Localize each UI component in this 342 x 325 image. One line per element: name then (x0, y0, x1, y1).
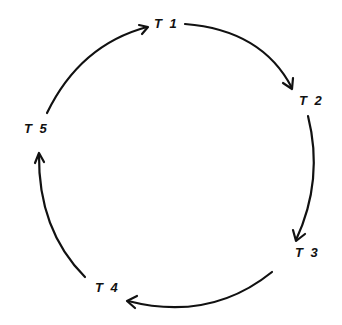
edge-t5-t1 (47, 25, 148, 113)
node-t5: T 5 (24, 122, 49, 135)
node-t1: T 1 (154, 17, 179, 30)
edge-t2-t3 (293, 116, 314, 241)
edge-t3-t4 (127, 272, 272, 308)
cycle-diagram: T 1 T 2 T 3 T 4 T 5 (0, 0, 342, 325)
edge-t1-t2 (185, 24, 293, 89)
edge-t4-t5 (35, 153, 85, 277)
diagram-edges (0, 0, 342, 325)
node-t3: T 3 (295, 246, 320, 259)
node-t4: T 4 (95, 281, 120, 294)
node-t2: T 2 (299, 94, 324, 107)
